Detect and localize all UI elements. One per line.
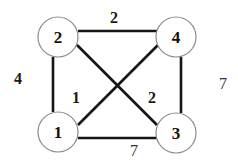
weight-1-4: 1 [72, 89, 80, 106]
weight-1-3: 7 [130, 142, 138, 159]
graph-diagram: 2 4 1 3 2 4 7 7 1 2 [0, 0, 238, 167]
node-3: 3 [156, 113, 196, 153]
node-3-label: 3 [172, 124, 181, 143]
node-4: 4 [156, 17, 196, 57]
node-2-label: 2 [54, 28, 63, 47]
weight-2-3: 2 [148, 89, 156, 106]
weight-2-4: 2 [110, 9, 118, 26]
node-1: 1 [38, 112, 78, 152]
weight-2-1: 4 [14, 70, 22, 87]
node-1-label: 1 [54, 123, 63, 142]
node-4-label: 4 [172, 28, 181, 47]
weight-4-3: 7 [219, 75, 227, 92]
node-2: 2 [38, 17, 78, 57]
